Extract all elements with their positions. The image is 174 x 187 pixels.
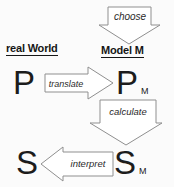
- choose-arrow-label: choose: [107, 8, 153, 25]
- interpret-arrow-label: interpret: [62, 152, 114, 175]
- node-s: S: [16, 146, 38, 179]
- translate-arrow-label: translate: [44, 75, 88, 92]
- calculate-arrow-label: calculate: [99, 101, 157, 121]
- node-sm-letter: S: [114, 146, 136, 179]
- column-header-real-world: real World: [6, 42, 58, 56]
- node-sm: S M: [114, 146, 147, 179]
- node-p: P: [13, 66, 35, 99]
- column-header-model-m: Model M: [101, 44, 144, 58]
- node-p-letter: P: [13, 66, 35, 99]
- node-pm-letter: P: [116, 66, 138, 99]
- node-s-letter: S: [16, 146, 38, 179]
- node-sm-subscript: M: [139, 167, 147, 176]
- node-pm: P M: [116, 66, 149, 99]
- diagram-stage: choose real World Model M P translate P …: [0, 0, 174, 187]
- node-pm-subscript: M: [141, 87, 149, 96]
